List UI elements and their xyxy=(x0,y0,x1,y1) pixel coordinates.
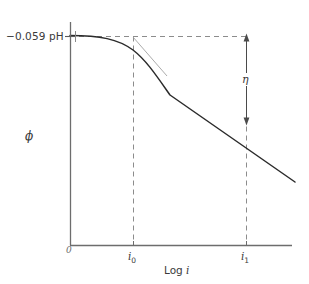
tangent-line xyxy=(133,37,167,76)
eta-label: η xyxy=(241,73,250,86)
origin-label: 0 xyxy=(66,246,72,255)
x-tick-i1-sub: 1 xyxy=(244,256,249,265)
x-tick-label-i0: i0 xyxy=(128,251,136,265)
x-axis-label: Log i xyxy=(164,265,189,276)
y-axis-label: ϕ xyxy=(25,130,33,142)
chart-canvas xyxy=(0,0,309,284)
figure-container: −0.059 pH ϕ η 0 i0 i1 Log i xyxy=(0,0,309,284)
x-tick-i0-sub: 0 xyxy=(131,256,136,265)
x-tick-label-i1: i1 xyxy=(241,251,249,265)
x-axis-label-prefix: Log xyxy=(164,264,186,276)
polarization-curve xyxy=(70,36,295,183)
x-axis-label-variable: i xyxy=(186,264,189,276)
y-level-label: −0.059 pH xyxy=(6,31,64,42)
